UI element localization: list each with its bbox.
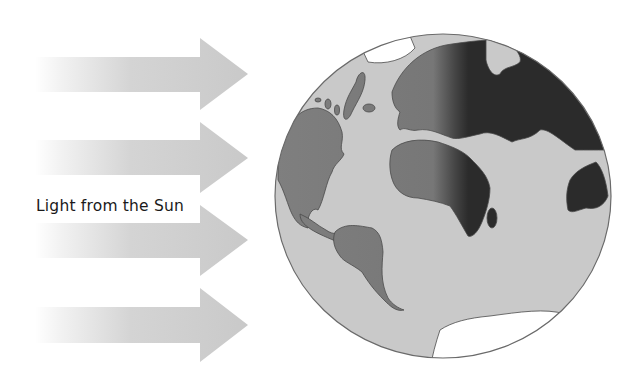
arrow-4 <box>35 288 248 362</box>
arrow-1 <box>35 38 248 110</box>
island <box>335 105 340 115</box>
madagascar <box>487 208 497 228</box>
island <box>315 98 321 102</box>
earth-globe <box>275 34 615 370</box>
sunlight-diagram: Light from the Sun <box>0 0 637 379</box>
arrow-3 <box>35 205 248 276</box>
sunlight-label: Light from the Sun <box>36 197 184 215</box>
iceland <box>363 104 375 112</box>
island <box>325 99 331 109</box>
arrow-2 <box>35 122 248 193</box>
